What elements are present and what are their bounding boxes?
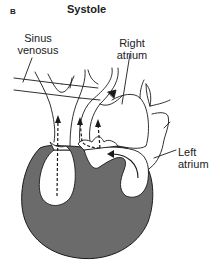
figure-title: Systole [67, 3, 106, 15]
label-sinus-venosus: Sinus venosus [16, 32, 60, 56]
vessel-line [14, 78, 62, 84]
label-line: atrium [112, 49, 152, 61]
sinus-venosus-right-wall [70, 70, 85, 146]
label-line: atrium [178, 158, 214, 170]
leader-left-atrium [154, 150, 176, 158]
flow-arrowheads [55, 115, 101, 127]
label-left-atrium: Left atrium [178, 146, 214, 170]
heart-systole-diagram: B Systole Sinus venosus Right atrium Lef… [0, 0, 220, 274]
label-right-atrium: Right atrium [112, 37, 152, 61]
label-line: venosus [16, 44, 60, 56]
right-atrium-outline [112, 94, 148, 148]
leader-right-atrium [122, 54, 130, 104]
label-line: Sinus [16, 32, 60, 44]
leader-sinus [23, 58, 32, 82]
label-line: Right [112, 37, 152, 49]
panel-letter: B [10, 6, 16, 18]
label-line: Left [178, 146, 214, 158]
